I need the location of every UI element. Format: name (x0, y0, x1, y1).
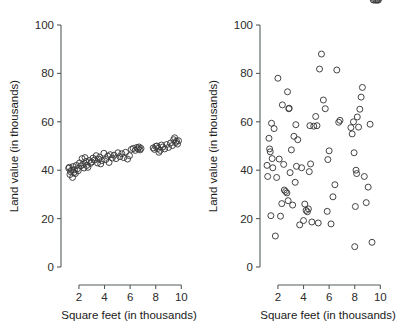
x-axis-tick-label: 4 (101, 291, 108, 303)
data-point (265, 173, 271, 179)
data-point (309, 219, 315, 225)
data-point (279, 102, 285, 108)
data-point (290, 202, 296, 208)
data-point (287, 170, 293, 176)
y-axis-tick-label: 40 (41, 164, 54, 176)
y-axis-title: Land value (in thousands) (207, 80, 219, 213)
data-point (332, 182, 338, 188)
scatter-panel-left: 020406080100246810Square feet (in thousa… (0, 0, 199, 335)
x-axis-tick-label: 8 (352, 291, 358, 303)
data-point (288, 147, 294, 153)
data-point (274, 174, 280, 180)
data-point (293, 122, 299, 128)
data-point (337, 117, 343, 123)
data-point (295, 137, 301, 143)
x-axis-tick-label: 4 (300, 291, 307, 303)
data-point (268, 213, 274, 219)
data-point (358, 94, 364, 100)
y-axis-tick-label: 100 (234, 19, 253, 31)
y-axis-tick-label: 20 (240, 213, 253, 225)
data-point (264, 162, 270, 168)
data-point (367, 121, 373, 127)
x-axis-tick-label: 10 (374, 291, 387, 303)
y-axis-tick-label: 20 (41, 213, 54, 225)
data-point (317, 66, 323, 72)
data-point (266, 135, 272, 141)
data-point (351, 150, 357, 156)
left-plot-group: 020406080100246810Square feet (in thousa… (8, 19, 197, 321)
data-point (270, 165, 276, 171)
y-axis-title: Land value (in thousands) (8, 80, 20, 213)
data-point (334, 67, 340, 73)
data-point (292, 179, 298, 185)
y-axis-tick-label: 80 (240, 67, 253, 79)
x-axis-tick-label: 6 (127, 291, 133, 303)
data-point (276, 156, 282, 162)
data-point (291, 133, 297, 139)
y-axis-tick-label: 60 (41, 116, 54, 128)
y-axis-tick-label: 0 (247, 261, 253, 273)
data-point (318, 51, 324, 57)
scatter-plot-right-svg: 020406080100246810Square feet (in thousa… (199, 0, 399, 335)
data-point (313, 113, 319, 119)
data-point (325, 157, 331, 163)
data-point (356, 124, 362, 130)
data-point (301, 218, 307, 224)
right-plot-group: 020406080100246810Square feet (in thousa… (207, 0, 396, 321)
x-axis-tick-label: 2 (76, 291, 82, 303)
y-axis-tick-label: 80 (41, 67, 54, 79)
figure-container: 020406080100246810Square feet (in thousa… (0, 0, 399, 335)
data-point (361, 173, 367, 179)
x-axis-title: Square feet (in thousands) (61, 309, 197, 321)
y-axis-tick-label: 0 (48, 261, 54, 273)
y-axis-tick-label: 100 (35, 19, 54, 31)
data-point (326, 148, 332, 154)
x-axis-tick-label: 10 (175, 291, 188, 303)
data-points-group (66, 135, 182, 181)
data-point (363, 200, 369, 206)
data-point (330, 194, 336, 200)
scatter-plot-left-svg: 020406080100246810Square feet (in thousa… (0, 0, 199, 335)
data-point (272, 233, 278, 239)
data-point (324, 208, 330, 214)
data-point (349, 131, 355, 137)
data-point (328, 221, 334, 227)
data-point (123, 149, 129, 155)
x-axis-title: Square feet (in thousands) (260, 309, 396, 321)
data-point (269, 156, 275, 162)
data-point (322, 106, 328, 112)
data-point (365, 184, 371, 190)
x-axis-tick-label: 2 (275, 291, 281, 303)
data-point (271, 126, 277, 132)
data-point (369, 239, 375, 245)
data-point (306, 169, 312, 175)
data-point (352, 244, 358, 250)
data-point (348, 125, 354, 131)
data-point (281, 161, 287, 167)
scatter-panel-right: 020406080100246810Square feet (in thousa… (199, 0, 398, 335)
data-point (277, 213, 283, 219)
data-point (308, 161, 314, 167)
y-axis-tick-label: 60 (240, 116, 253, 128)
y-axis-tick-label: 40 (240, 164, 253, 176)
data-point (359, 84, 365, 90)
x-axis-tick-label: 8 (153, 291, 159, 303)
data-point (285, 89, 291, 95)
x-axis-tick-label: 6 (326, 291, 332, 303)
data-point (352, 204, 358, 210)
data-points-group (264, 0, 381, 250)
data-point (320, 97, 326, 103)
data-point (315, 220, 321, 226)
data-point (279, 201, 285, 207)
data-point (275, 75, 281, 81)
data-point (354, 114, 360, 120)
data-point (357, 106, 363, 112)
